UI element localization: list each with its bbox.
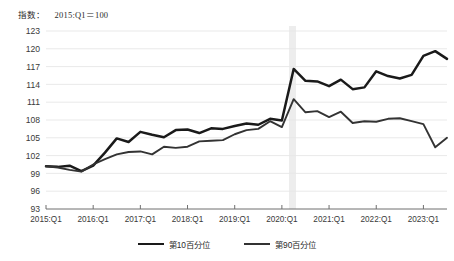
recession-shading <box>289 26 296 209</box>
svg-text:105: 105 <box>26 133 41 143</box>
svg-text:2023:Q1: 2023:Q1 <box>408 215 440 224</box>
svg-text:111: 111 <box>27 97 40 107</box>
svg-text:120: 120 <box>26 44 41 54</box>
legend-swatch-p90-icon <box>244 243 270 245</box>
svg-text:2020:Q1: 2020:Q1 <box>266 215 298 224</box>
svg-text:99: 99 <box>30 169 40 179</box>
svg-text:2019:Q1: 2019:Q1 <box>219 215 251 224</box>
svg-text:2017:Q1: 2017:Q1 <box>125 215 157 224</box>
y-axis-tick-labels: 939699102105108111114117120123 <box>26 26 41 214</box>
line-chart-plot: 939699102105108111114117120123 2015:Q120… <box>0 0 454 232</box>
x-axis-tick-labels: 2015:Q12016:Q12017:Q12018:Q12019:Q12020:… <box>30 215 439 224</box>
svg-text:108: 108 <box>26 115 41 125</box>
svg-text:2022:Q1: 2022:Q1 <box>361 215 393 224</box>
chart-figure: 指数：2015:Q1＝100 9396991021051081111141171… <box>0 0 454 261</box>
svg-text:114: 114 <box>26 80 40 90</box>
svg-text:117: 117 <box>26 62 40 72</box>
legend-item-p90: 第90百分位 <box>244 238 316 250</box>
x-axis-tick-marks <box>46 205 423 209</box>
data-series <box>46 51 447 171</box>
svg-text:93: 93 <box>30 204 40 214</box>
svg-text:102: 102 <box>26 151 41 161</box>
svg-text:2021:Q1: 2021:Q1 <box>313 215 345 224</box>
legend-label-p10: 第10百分位 <box>169 238 210 250</box>
svg-text:96: 96 <box>30 186 40 196</box>
svg-text:2018:Q1: 2018:Q1 <box>172 215 204 224</box>
svg-text:2016:Q1: 2016:Q1 <box>77 215 109 224</box>
svg-text:2015:Q1: 2015:Q1 <box>30 215 62 224</box>
legend-label-p90: 第90百分位 <box>275 238 316 250</box>
legend-swatch-p10-icon <box>138 243 164 246</box>
svg-text:123: 123 <box>26 26 41 36</box>
legend-item-p10: 第10百分位 <box>138 238 210 250</box>
gridlines <box>46 31 447 191</box>
chart-legend: 第10百分位 第90百分位 <box>0 238 454 250</box>
